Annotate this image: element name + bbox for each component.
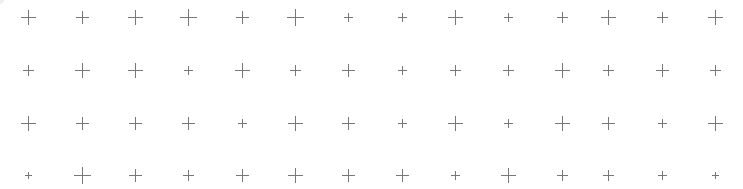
plus-icon[interactable] [342, 117, 355, 130]
plus-icon[interactable] [236, 169, 249, 182]
plus-icon[interactable] [287, 9, 304, 26]
plus-icon[interactable] [398, 13, 407, 22]
plus-icon[interactable] [25, 172, 32, 179]
plus-icon[interactable] [23, 65, 34, 76]
corner-marker [0, 0, 4, 4]
plus-icon[interactable] [656, 64, 669, 77]
plus-icon[interactable] [21, 10, 36, 25]
plus-icon[interactable] [184, 66, 193, 75]
plus-icon[interactable] [603, 65, 614, 76]
plus-icon[interactable] [451, 171, 460, 180]
plus-icon[interactable] [396, 169, 409, 182]
plus-icon[interactable] [74, 167, 91, 184]
plus-icon[interactable] [657, 12, 668, 23]
plus-icon[interactable] [557, 12, 568, 23]
plus-icon[interactable] [603, 170, 614, 181]
plus-icon[interactable] [708, 10, 723, 25]
plus-icon[interactable] [129, 169, 142, 182]
plus-icon[interactable] [342, 169, 355, 182]
plus-icon[interactable] [129, 117, 142, 130]
plus-icon[interactable] [238, 119, 247, 128]
plus-icon[interactable] [503, 65, 514, 76]
plus-icon[interactable] [21, 116, 36, 131]
plus-icon[interactable] [128, 63, 143, 78]
plus-icon[interactable] [398, 66, 407, 75]
plus-icon[interactable] [75, 63, 90, 78]
plus-icon[interactable] [236, 11, 249, 24]
plus-icon[interactable] [342, 64, 355, 77]
plus-icon[interactable] [448, 116, 463, 131]
plus-icon[interactable] [658, 171, 667, 180]
plus-icon[interactable] [288, 168, 303, 183]
plus-icon[interactable] [710, 65, 721, 76]
plus-icon[interactable] [555, 116, 570, 131]
plus-icon[interactable] [712, 172, 719, 179]
plus-icon[interactable] [708, 116, 723, 131]
plus-icon[interactable] [344, 13, 353, 22]
plus-icon[interactable] [602, 117, 615, 130]
plus-icon[interactable] [448, 10, 463, 25]
plus-grid-canvas [0, 0, 743, 189]
plus-icon[interactable] [658, 119, 667, 128]
plus-icon[interactable] [555, 63, 570, 78]
plus-icon[interactable] [235, 63, 250, 78]
plus-icon[interactable] [128, 10, 143, 25]
plus-icon[interactable] [183, 170, 194, 181]
plus-icon[interactable] [76, 117, 89, 130]
plus-icon[interactable] [501, 168, 516, 183]
plus-icon[interactable] [398, 119, 407, 128]
plus-icon[interactable] [290, 65, 301, 76]
plus-icon[interactable] [504, 119, 513, 128]
plus-icon[interactable] [504, 13, 513, 22]
plus-icon[interactable] [76, 11, 89, 24]
plus-icon[interactable] [450, 65, 461, 76]
plus-icon[interactable] [557, 170, 568, 181]
plus-icon[interactable] [601, 10, 616, 25]
plus-icon[interactable] [288, 116, 303, 131]
plus-icon[interactable] [180, 9, 197, 26]
plus-icon[interactable] [182, 117, 195, 130]
